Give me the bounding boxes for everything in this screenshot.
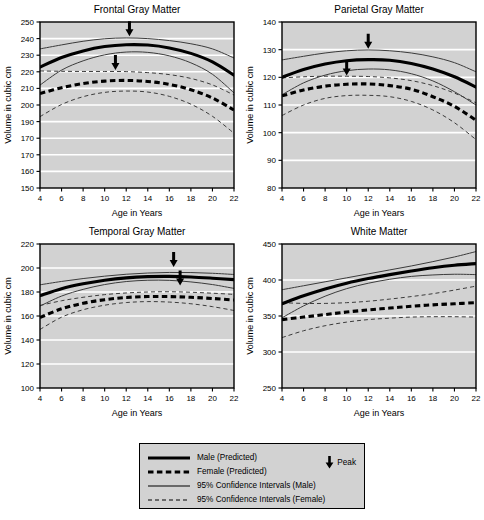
x-tick-label: 20 — [450, 394, 459, 403]
x-tick-label: 6 — [59, 194, 64, 203]
panel-title: Frontal Gray Matter — [94, 4, 181, 15]
y-tick-label: 300 — [263, 348, 277, 357]
down-arrow-icon — [325, 456, 334, 469]
panel-title: Temporal Gray Matter — [89, 226, 186, 237]
y-tick-label: 220 — [21, 68, 35, 77]
legend-item-label: Male (Predicted) — [197, 452, 257, 464]
y-tick-label: 350 — [263, 312, 277, 321]
x-tick-label: 8 — [323, 394, 328, 403]
x-tick-label: 14 — [385, 394, 394, 403]
y-axis-title: Volume in cubic cm — [245, 66, 255, 144]
x-tick-label: 8 — [323, 194, 328, 203]
y-axis-title: Volume in cubic cm — [3, 277, 13, 355]
chart-svg: White Matter2503003504004504681012141618… — [242, 222, 484, 422]
y-tick-label: 130 — [263, 46, 277, 55]
y-tick-label: 120 — [21, 360, 35, 369]
chart-svg: Parietal Gray Matter80901001101201301404… — [242, 0, 484, 222]
x-tick-label: 18 — [428, 194, 437, 203]
chart-svg: Temporal Gray Matter10012014016018020022… — [0, 222, 242, 422]
y-tick-label: 400 — [263, 276, 277, 285]
legend-line-swatch — [147, 494, 191, 506]
panel-temporal-gray-matter: Temporal Gray Matter10012014016018020022… — [0, 222, 242, 422]
x-tick-label: 10 — [342, 194, 351, 203]
y-tick-label: 160 — [21, 312, 35, 321]
y-tick-label: 140 — [263, 18, 277, 27]
x-axis-title: Age in Years — [354, 408, 405, 418]
x-tick-label: 18 — [428, 394, 437, 403]
x-tick-label: 16 — [165, 394, 174, 403]
y-tick-label: 450 — [263, 240, 277, 249]
y-tick-label: 200 — [21, 264, 35, 273]
x-tick-label: 18 — [186, 194, 195, 203]
y-tick-label: 90 — [267, 156, 276, 165]
x-tick-label: 16 — [407, 394, 416, 403]
y-tick-label: 200 — [21, 101, 35, 110]
x-tick-label: 22 — [230, 194, 239, 203]
legend-item-label: 95% Confidence Intervals (Male) — [197, 480, 316, 492]
x-tick-label: 22 — [230, 394, 239, 403]
legend-item-label: Female (Predicted) — [197, 466, 267, 478]
x-tick-label: 10 — [100, 194, 109, 203]
panel-grid: Frontal Gray Matter150160170170190200210… — [0, 0, 484, 422]
y-tick-label: 160 — [21, 167, 35, 176]
x-tick-label: 6 — [301, 194, 306, 203]
y-tick-label: 120 — [263, 73, 277, 82]
panel-frontal-gray-matter: Frontal Gray Matter150160170170190200210… — [0, 0, 242, 222]
x-axis-title: Age in Years — [112, 208, 163, 218]
x-tick-label: 22 — [472, 194, 481, 203]
x-tick-label: 8 — [81, 194, 86, 203]
y-tick-label: 190 — [21, 118, 35, 127]
figure-legend: Male (Predicted)Female (Predicted)95% Co… — [139, 443, 365, 509]
x-tick-label: 12 — [364, 394, 373, 403]
y-tick-label: 230 — [21, 51, 35, 60]
x-tick-label: 6 — [59, 394, 64, 403]
legend-peak-entry: Peak — [325, 456, 356, 469]
y-tick-label: 250 — [21, 18, 35, 27]
y-tick-label: 140 — [21, 336, 35, 345]
x-tick-label: 14 — [143, 394, 152, 403]
legend-item: 95% Confidence Intervals (Male) — [147, 479, 325, 492]
x-axis-title: Age in Years — [112, 408, 163, 418]
x-tick-label: 4 — [280, 194, 285, 203]
y-axis-title: Volume in cubic cm — [3, 66, 13, 144]
x-tick-label: 12 — [364, 194, 373, 203]
x-tick-label: 20 — [450, 194, 459, 203]
x-tick-label: 14 — [143, 194, 152, 203]
x-tick-label: 12 — [122, 394, 131, 403]
x-tick-label: 12 — [122, 194, 131, 203]
x-tick-label: 6 — [301, 394, 306, 403]
y-tick-label: 240 — [21, 35, 35, 44]
panel-white-matter: White Matter2503003504004504681012141618… — [242, 222, 484, 422]
legend-line-swatch — [147, 480, 191, 492]
x-tick-label: 20 — [208, 394, 217, 403]
y-tick-label: 210 — [21, 84, 35, 93]
y-tick-label: 170 — [21, 151, 35, 160]
x-tick-label: 14 — [385, 194, 394, 203]
brain-volume-figure: Frontal Gray Matter150160170170190200210… — [0, 0, 484, 520]
x-tick-label: 4 — [38, 194, 43, 203]
x-tick-label: 4 — [38, 394, 43, 403]
legend-rows: Male (Predicted)Female (Predicted)95% Co… — [147, 451, 325, 506]
y-tick-label: 100 — [21, 384, 35, 393]
y-axis-title: Volume in cubic cm — [245, 277, 255, 355]
y-tick-label: 100 — [263, 129, 277, 138]
y-tick-label: 170 — [21, 134, 35, 143]
panel-parietal-gray-matter: Parietal Gray Matter80901001101201301404… — [242, 0, 484, 222]
legend-line-swatch — [147, 452, 191, 464]
legend-item: Female (Predicted) — [147, 465, 325, 478]
legend-item: 95% Confidence Intervals (Female) — [147, 493, 325, 506]
y-tick-label: 250 — [263, 384, 277, 393]
legend-item-label: 95% Confidence Intervals (Female) — [197, 494, 325, 506]
x-tick-label: 22 — [472, 394, 481, 403]
y-tick-label: 150 — [21, 184, 35, 193]
x-tick-label: 20 — [208, 194, 217, 203]
panel-title: White Matter — [351, 226, 408, 237]
legend-peak-label: Peak — [337, 457, 356, 468]
y-tick-label: 180 — [21, 288, 35, 297]
x-tick-label: 10 — [342, 394, 351, 403]
legend-item: Male (Predicted) — [147, 451, 325, 464]
legend-line-swatch — [147, 466, 191, 478]
y-tick-label: 80 — [267, 184, 276, 193]
x-tick-label: 4 — [280, 394, 285, 403]
x-axis-title: Age in Years — [354, 208, 405, 218]
